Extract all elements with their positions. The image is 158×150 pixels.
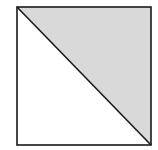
- diagram-canvas: [0, 0, 158, 150]
